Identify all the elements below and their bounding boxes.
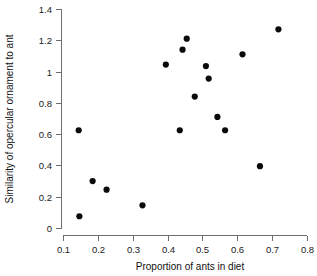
data-points bbox=[76, 26, 282, 219]
x-axis-tick-label: 0.7 bbox=[266, 244, 279, 255]
x-axis-tick-label: 0.8 bbox=[301, 244, 314, 255]
y-axis-tick-label: 0.4 bbox=[39, 160, 52, 171]
y-axis-tick-label: 0 bbox=[47, 223, 52, 234]
x-axis: 0.10.20.30.40.50.60.70.8 bbox=[57, 236, 314, 256]
data-point bbox=[177, 127, 183, 133]
data-point bbox=[206, 76, 212, 82]
x-axis-tick-label: 0.4 bbox=[162, 244, 175, 255]
x-axis-tick-label: 0.3 bbox=[127, 244, 140, 255]
data-point bbox=[90, 178, 96, 184]
data-point bbox=[184, 36, 190, 42]
data-point bbox=[257, 163, 263, 169]
y-axis-tick-label: 0.2 bbox=[39, 192, 52, 203]
x-axis-tick-label: 0.5 bbox=[196, 244, 209, 255]
y-axis-tick-label: 0.6 bbox=[39, 129, 52, 140]
data-point bbox=[192, 94, 198, 100]
data-point bbox=[76, 213, 82, 219]
x-axis-tick-label: 0.2 bbox=[92, 244, 105, 255]
x-axis-title: Proportion of ants in diet bbox=[136, 261, 245, 272]
y-axis-tick-label: 0.8 bbox=[39, 98, 52, 109]
data-point bbox=[76, 127, 82, 133]
y-axis-tick-labels: 00.20.40.60.811.21.4 bbox=[39, 4, 52, 234]
x-axis-tick-labels: 0.10.20.30.40.50.60.70.8 bbox=[57, 244, 314, 255]
data-point bbox=[163, 61, 169, 67]
data-point bbox=[203, 63, 209, 69]
data-point bbox=[139, 202, 145, 208]
plot-canvas: 00.20.40.60.811.21.4 0.10.20.30.40.50.60… bbox=[0, 0, 317, 276]
y-axis-tick-label: 1 bbox=[47, 67, 52, 78]
y-axis-title: Similarity of opercular ornament to ant bbox=[4, 34, 15, 203]
x-axis-tick-label: 0.6 bbox=[231, 244, 244, 255]
y-axis: 00.20.40.60.811.21.4 bbox=[39, 4, 62, 234]
scatter-plot-figure: 00.20.40.60.811.21.4 0.10.20.30.40.50.60… bbox=[0, 0, 317, 276]
data-point bbox=[222, 127, 228, 133]
x-axis-tick-label: 0.1 bbox=[57, 244, 70, 255]
data-point bbox=[239, 51, 245, 57]
x-axis-ticks bbox=[64, 236, 308, 242]
y-axis-tick-label: 1.2 bbox=[39, 35, 52, 46]
y-axis-tick-label: 1.4 bbox=[39, 4, 52, 15]
data-point bbox=[214, 114, 220, 120]
data-point bbox=[275, 26, 281, 32]
data-point bbox=[103, 187, 109, 193]
data-point bbox=[179, 47, 185, 53]
y-axis-ticks bbox=[56, 10, 62, 229]
